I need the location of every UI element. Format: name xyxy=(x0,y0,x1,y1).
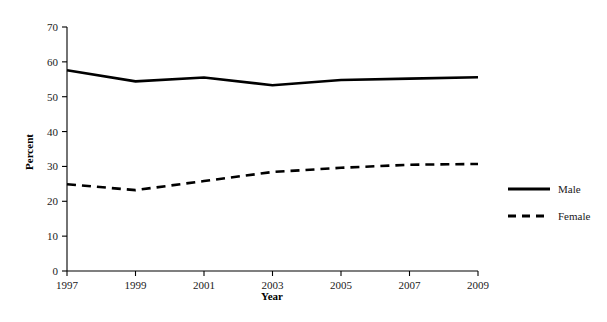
y-tick-label: 50 xyxy=(47,91,59,103)
y-tick-label: 60 xyxy=(47,56,59,68)
x-axis-title: Year xyxy=(261,290,283,302)
x-tick-label: 2005 xyxy=(330,279,353,291)
x-tick-label: 1997 xyxy=(56,279,79,291)
y-tick-label: 0 xyxy=(53,265,59,277)
x-tick-label: 2007 xyxy=(399,279,422,291)
y-tick-label: 70 xyxy=(47,21,59,33)
y-tick-label: 20 xyxy=(47,195,59,207)
chart-background xyxy=(0,0,607,322)
y-tick-label: 10 xyxy=(47,230,59,242)
x-tick-label: 2001 xyxy=(193,279,215,291)
y-tick-label: 40 xyxy=(47,126,59,138)
y-axis-title: Percent xyxy=(23,134,35,170)
chart-canvas: 010203040506070 199719992001200320052007… xyxy=(0,0,607,322)
legend-label-male: Male xyxy=(558,183,581,195)
y-tick-label: 30 xyxy=(47,160,59,172)
legend-label-female: Female xyxy=(558,210,590,222)
x-tick-label: 1999 xyxy=(125,279,148,291)
line-chart: 010203040506070 199719992001200320052007… xyxy=(0,0,607,322)
x-tick-label: 2009 xyxy=(467,279,490,291)
